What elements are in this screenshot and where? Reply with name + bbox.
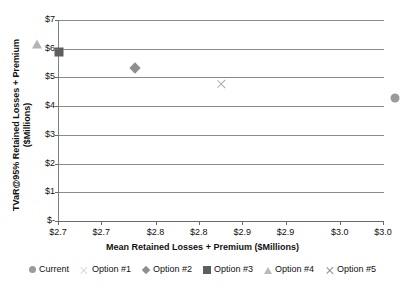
gridline: [59, 135, 384, 136]
y-tick-mark: [55, 49, 59, 50]
x-tick-mark: [286, 221, 287, 225]
legend-item-option-3[interactable]: Option #3: [203, 264, 253, 274]
y-tick-mark: [55, 164, 59, 165]
gridline: [59, 164, 384, 165]
x-tick-mark: [242, 221, 243, 225]
legend-item-option-2[interactable]: Option #2: [142, 264, 192, 274]
data-point-option-4: [32, 40, 42, 49]
x-axis-line: [59, 221, 384, 222]
legend-item-option-1[interactable]: Option #1: [80, 264, 131, 274]
gridline: [59, 106, 384, 107]
x-tick-label: $2.7: [81, 227, 121, 237]
y-tick-label: $4: [33, 101, 55, 110]
triangle-marker-icon: [264, 267, 272, 274]
gridline: [59, 20, 384, 21]
y-tick-mark: [55, 135, 59, 136]
x-tick-label: $2.8: [179, 227, 219, 237]
legend-label: Option #2: [153, 264, 192, 274]
x-tick-label: $2.8: [136, 227, 176, 237]
chart-legend: CurrentOption #1Option #2Option #3Option…: [0, 264, 405, 274]
y-tick-mark: [55, 106, 59, 107]
y-tick-mark: [55, 192, 59, 193]
y-tick-mark: [55, 20, 59, 21]
scatter-chart: TVaR@95% Retained Losses + Premium ($Mil…: [0, 0, 405, 293]
x-tick-label: $2.7: [38, 227, 78, 237]
x-tick-mark: [340, 221, 341, 225]
square-marker-icon: [203, 266, 211, 274]
legend-label: Current: [39, 264, 69, 274]
y-tick-label: $5: [33, 72, 55, 81]
y-tick-label: $2: [33, 159, 55, 168]
x-marker-icon: [325, 265, 334, 274]
y-tick-label: $1: [33, 187, 55, 196]
legend-item-option-4[interactable]: Option #4: [264, 264, 314, 274]
legend-label: Option #4: [275, 264, 314, 274]
x-tick-label: $3.0: [363, 227, 403, 237]
x-tick-label: $3.0: [320, 227, 360, 237]
y-tick-mark: [55, 77, 59, 78]
plot-area: [58, 20, 383, 221]
y-tick-label: $-: [33, 216, 55, 225]
x-faint-marker-icon: [80, 265, 89, 274]
legend-item-option-5[interactable]: Option #5: [325, 264, 376, 274]
data-point-option-5: [216, 78, 227, 89]
x-tick-mark: [383, 221, 384, 225]
y-tick-mark: [55, 221, 59, 222]
data-point-option-2: [129, 62, 140, 73]
x-tick-label: $2.9: [266, 227, 306, 237]
y-axis-title-line1: TVaR@95% Retained Losses + Premium: [11, 39, 22, 211]
legend-label: Option #1: [92, 264, 131, 274]
x-tick-mark: [199, 221, 200, 225]
data-point-current: [390, 94, 399, 103]
circle-marker-icon: [29, 266, 36, 273]
x-tick-mark: [101, 221, 102, 225]
legend-item-current[interactable]: Current: [29, 264, 69, 274]
legend-label: Option #5: [337, 264, 376, 274]
x-tick-label: $2.9: [222, 227, 262, 237]
gridline: [59, 49, 384, 50]
y-tick-label: $7: [33, 15, 55, 24]
gridline: [59, 192, 384, 193]
x-tick-mark: [156, 221, 157, 225]
legend-label: Option #3: [214, 264, 253, 274]
y-tick-label: $3: [33, 130, 55, 139]
diamond-marker-icon: [142, 265, 150, 273]
x-axis-title: Mean Retained Losses + Premium ($Million…: [0, 242, 405, 252]
